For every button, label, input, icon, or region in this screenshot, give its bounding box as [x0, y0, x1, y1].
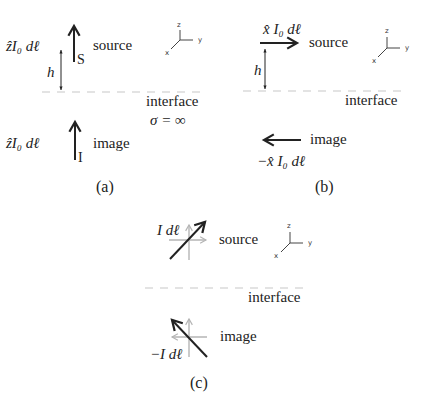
image-current-label-a: ẑI₀ dℓ	[6, 135, 40, 152]
image-label-c: image	[220, 328, 257, 345]
height-label-b: h	[254, 62, 262, 79]
image-label-b: image	[310, 131, 347, 148]
caption-a: (a)	[96, 178, 114, 196]
axis-x-label-a: x	[165, 49, 169, 57]
axis-y-label-c: y	[308, 239, 312, 247]
image-marker-a: I	[78, 150, 83, 166]
interface-label-b: interface	[345, 92, 397, 109]
source-current-label-a: ẑI₀ dℓ	[6, 38, 40, 55]
axis-y-label-b: y	[405, 44, 409, 52]
axis-x-label-b: x	[372, 57, 376, 65]
interface-label-a: interface	[146, 93, 198, 110]
axes-icon-a	[171, 30, 193, 49]
source-label-a: source	[93, 37, 132, 54]
caption-b: (b)	[315, 178, 334, 196]
axis-y-label-a: y	[198, 36, 202, 44]
axis-x-label-c: x	[274, 252, 278, 260]
image-label-a: image	[93, 135, 130, 152]
diagram-canvas	[0, 0, 429, 408]
source-label-b: source	[309, 34, 348, 51]
condition-label-a: σ = ∞	[150, 112, 186, 129]
source-marker-a: S	[77, 52, 85, 68]
source-label-c: source	[219, 231, 258, 248]
interface-label-c: interface	[248, 289, 300, 306]
caption-c: (c)	[190, 374, 208, 392]
panel-b	[243, 37, 405, 140]
axis-z-label-c: z	[287, 222, 291, 230]
axis-z-label-b: z	[385, 27, 389, 35]
height-label-a: h	[47, 64, 55, 81]
axes-icon-b	[378, 37, 400, 57]
source-current-label-c: I dℓ	[157, 222, 180, 239]
image-current-label-b: −x̂ I₀ dℓ	[257, 153, 305, 170]
axes-icon-c	[281, 232, 303, 252]
axis-z-label-a: z	[177, 21, 181, 29]
image-current-label-c: −I dℓ	[150, 346, 183, 363]
source-current-label-b: x̂ I₀ dℓ	[263, 21, 301, 38]
